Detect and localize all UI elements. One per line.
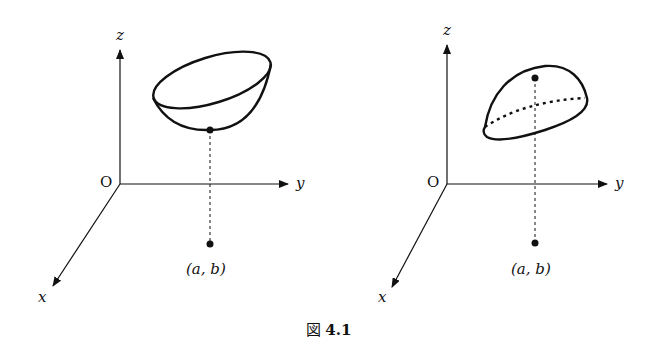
right-axes bbox=[392, 45, 607, 287]
left-y-label: y bbox=[296, 176, 304, 191]
left-minimum-point bbox=[207, 127, 214, 134]
caption-number: 4.1 bbox=[325, 321, 351, 339]
left-ab-point bbox=[207, 241, 214, 248]
right-ab-point bbox=[532, 240, 539, 247]
right-z-label: z bbox=[443, 23, 451, 38]
right-x-label: x bbox=[378, 290, 386, 305]
right-ab-label: (a, b) bbox=[511, 262, 551, 277]
right-maximum-point bbox=[532, 75, 539, 82]
left-origin-label: O bbox=[100, 175, 112, 190]
right-x-axis bbox=[392, 184, 447, 287]
left-bowl-surface bbox=[147, 40, 277, 130]
left-ab-label: (a, b) bbox=[186, 262, 226, 277]
left-x-axis bbox=[53, 184, 120, 286]
right-origin-label: O bbox=[427, 175, 439, 190]
caption-prefix: 図 bbox=[306, 321, 321, 339]
left-x-label: x bbox=[38, 290, 46, 305]
figure-caption: 図 4.1 bbox=[0, 318, 657, 339]
right-y-label: y bbox=[615, 176, 623, 191]
left-z-label: z bbox=[116, 28, 124, 43]
figure-canvas bbox=[0, 0, 657, 346]
